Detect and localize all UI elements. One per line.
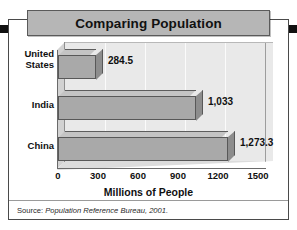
- category-label-united-states: United States: [14, 49, 54, 70]
- source-citation: Population Reference Bureau, 2001.: [45, 206, 168, 215]
- bar-front-face: [58, 96, 196, 120]
- bar-india: [58, 90, 196, 114]
- xtick-600: 600: [130, 170, 146, 181]
- bar-china: [58, 131, 228, 155]
- xtick-300: 300: [90, 170, 106, 181]
- value-label-china: 1,273.3: [240, 137, 273, 148]
- bar-top-edge: [65, 131, 228, 132]
- x-axis-title: Millions of People: [14, 186, 283, 198]
- title-banner: Comparing Population: [27, 10, 270, 36]
- plot-area: United States India China: [14, 42, 283, 185]
- chart-title: Comparing Population: [75, 16, 222, 31]
- bar-front-face: [58, 137, 228, 161]
- xtick-0: 0: [55, 170, 60, 181]
- xtick-900: 900: [170, 170, 186, 181]
- plot-3d-box: 284.5 1,033 1,273.3: [57, 42, 273, 169]
- bar-united-states: [58, 49, 96, 73]
- plot-floor-edge: [57, 168, 266, 169]
- source-separator: [9, 200, 288, 201]
- bar-front-face: [58, 55, 96, 79]
- chart-figure: Comparing Population United States India…: [0, 0, 297, 230]
- value-label-india: 1,033: [208, 96, 233, 107]
- xtick-1500: 1500: [247, 170, 268, 181]
- value-label-united-states: 284.5: [108, 55, 133, 66]
- bar-top-edge: [65, 90, 196, 91]
- source-note: Source: Population Reference Bureau, 200…: [17, 206, 168, 215]
- category-axis-labels: United States India China: [14, 42, 54, 167]
- bar-top-edge: [65, 49, 96, 50]
- category-label-china: China: [14, 141, 54, 152]
- xtick-1200: 1200: [207, 170, 228, 181]
- x-axis-ticks: 0 300 600 900 1200 1500: [57, 170, 273, 184]
- source-prefix: Source:: [17, 206, 43, 215]
- category-label-india: India: [14, 100, 54, 111]
